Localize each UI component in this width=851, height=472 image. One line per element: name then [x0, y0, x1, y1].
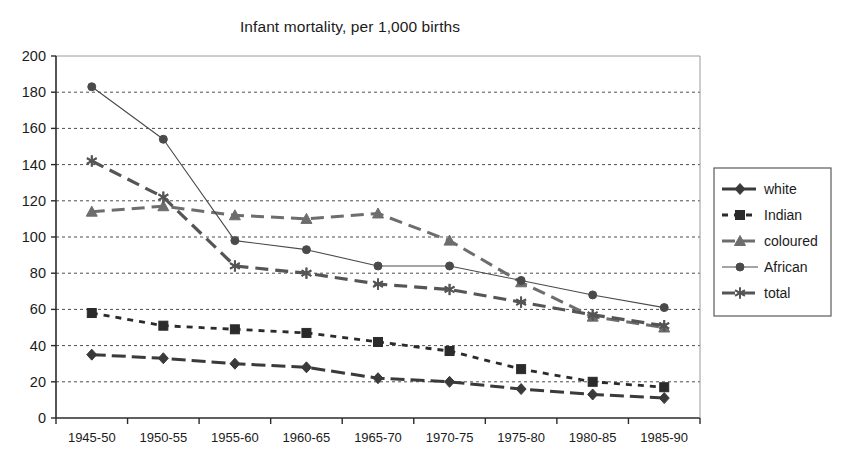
data-point-indian-1965-70: [374, 337, 383, 346]
x-tick-label: 1975-80: [497, 430, 545, 445]
data-point-african-1985-90: [660, 304, 668, 312]
x-tick-label: 1950-55: [139, 430, 187, 445]
data-series-group: [86, 83, 669, 404]
x-tick-label: 1980-85: [569, 430, 617, 445]
legend-label-total: total: [764, 285, 790, 301]
data-point-white-1970-75: [445, 376, 455, 387]
series-african: [88, 83, 668, 312]
data-point-white-1960-65: [301, 362, 311, 373]
data-point-indian-1985-90: [660, 383, 669, 392]
data-point-african-1950-55: [159, 135, 167, 143]
infant-mortality-chart: Infant mortality, per 1,000 births 02040…: [0, 0, 851, 472]
legend-marker-african: [736, 263, 744, 271]
x-tick-label: 1960-65: [283, 430, 331, 445]
series-line-total: [92, 161, 664, 326]
data-point-african-1945-50: [88, 83, 96, 91]
legend-label-coloured: coloured: [764, 233, 818, 249]
y-tick-label: 200: [22, 48, 46, 64]
y-tick-label: 60: [30, 301, 46, 317]
data-point-african-1955-60: [231, 237, 239, 245]
data-point-indian-1975-80: [517, 365, 526, 374]
data-point-african-1960-65: [302, 246, 310, 254]
data-point-indian-1950-55: [159, 321, 168, 330]
x-tick-label: 1970-75: [426, 430, 474, 445]
y-tick-label: 120: [22, 193, 46, 209]
legend-label-indian: Indian: [764, 207, 802, 223]
y-axis-tick-labels: 020406080100120140160180200: [22, 48, 46, 426]
series-line-african: [92, 87, 664, 308]
y-tick-label: 20: [30, 374, 46, 390]
data-point-white-1975-80: [516, 384, 526, 395]
data-point-african-1975-80: [517, 276, 525, 284]
x-tick-label: 1945-50: [68, 430, 116, 445]
legend-label-white: white: [763, 181, 797, 197]
gridlines-group: [56, 56, 700, 382]
data-point-indian-1955-60: [230, 325, 239, 334]
legend-label-african: African: [764, 259, 808, 275]
legend-marker-indian: [736, 211, 745, 220]
data-point-indian-1945-50: [87, 309, 96, 318]
series-white: [87, 349, 669, 403]
data-point-indian-1980-85: [588, 377, 597, 386]
y-tick-label: 80: [30, 265, 46, 281]
series-total: [87, 155, 669, 331]
data-point-white-1980-85: [588, 389, 598, 400]
data-point-white-1985-90: [659, 393, 669, 404]
x-tick-label: 1965-70: [354, 430, 402, 445]
x-tick-label: 1955-60: [211, 430, 259, 445]
y-tick-label: 100: [22, 229, 46, 245]
data-point-white-1950-55: [158, 353, 168, 364]
x-tick-label: 1985-90: [640, 430, 688, 445]
y-tick-label: 40: [30, 338, 46, 354]
y-tick-label: 140: [22, 157, 46, 173]
data-point-white-1945-50: [87, 349, 97, 360]
y-tick-label: 180: [22, 84, 46, 100]
data-point-indian-1960-65: [302, 328, 311, 337]
x-axis-tick-labels: 1945-501950-551955-601960-651965-701970-…: [68, 430, 688, 445]
chart-legend: whiteIndiancolouredAfricantotal: [714, 168, 831, 316]
data-point-indian-1970-75: [445, 347, 454, 356]
y-tick-label: 160: [22, 120, 46, 136]
data-point-african-1980-85: [589, 291, 597, 299]
data-point-african-1965-70: [374, 262, 382, 270]
axes-group: [51, 56, 700, 424]
data-point-white-1955-60: [230, 358, 240, 369]
y-tick-label: 0: [38, 410, 46, 426]
data-point-african-1970-75: [446, 262, 454, 270]
chart-plot-area: 020406080100120140160180200 1945-501950-…: [0, 0, 851, 472]
